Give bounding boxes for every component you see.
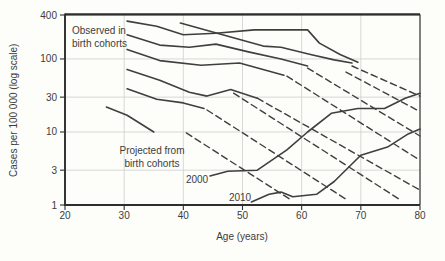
birth-cohort-chart: 20304050607080400100301031 Cases per 100… bbox=[0, 0, 445, 261]
y-axis-title: Cases per 100 000 (log scale) bbox=[8, 0, 21, 220]
x-axis-title: Age (years) bbox=[192, 231, 292, 244]
projected-annotation-line2: birth cohorts bbox=[102, 158, 202, 171]
observed-annotation-line2: birth cohorts bbox=[72, 38, 127, 51]
x-tick-label: 60 bbox=[296, 210, 308, 221]
x-tick-label: 20 bbox=[59, 210, 71, 221]
year-2000-label: 2000 bbox=[177, 174, 217, 187]
observed-annotation-line1: Observed in bbox=[72, 25, 127, 38]
chart-background bbox=[0, 0, 445, 261]
y-tick-label: 100 bbox=[40, 53, 57, 64]
y-tick-label: 30 bbox=[46, 92, 58, 103]
projected-annotation-line1: Projected from bbox=[102, 145, 202, 158]
projected-annotation: Projected from birth cohorts bbox=[102, 145, 202, 170]
y-tick-label: 400 bbox=[40, 10, 57, 21]
year-2010-label: 2010 bbox=[220, 192, 260, 205]
y-tick-label: 10 bbox=[46, 126, 58, 137]
chart-canvas: 20304050607080400100301031 bbox=[0, 0, 445, 261]
x-tick-label: 50 bbox=[237, 210, 249, 221]
x-tick-label: 80 bbox=[414, 210, 426, 221]
x-tick-label: 30 bbox=[119, 210, 131, 221]
x-tick-label: 40 bbox=[178, 210, 190, 221]
y-tick-label: 1 bbox=[51, 200, 57, 211]
x-tick-label: 70 bbox=[355, 210, 367, 221]
y-tick-label: 3 bbox=[51, 165, 57, 176]
observed-annotation: Observed in birth cohorts bbox=[72, 25, 127, 50]
